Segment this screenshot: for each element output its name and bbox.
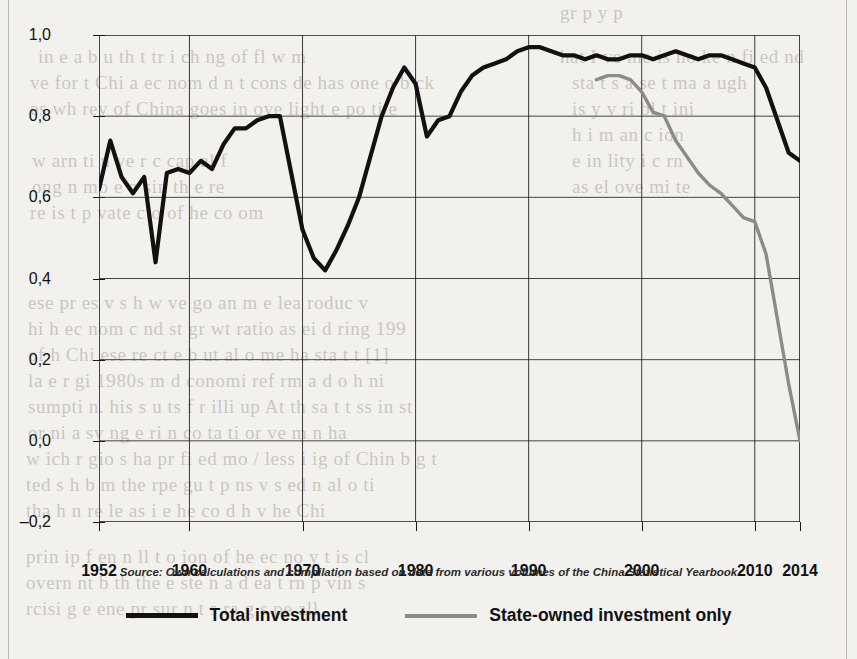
legend-label: Total investment	[210, 605, 348, 626]
y-tick-label: 0,8	[5, 107, 51, 125]
y-tick-label: 0,0	[5, 432, 51, 450]
source-note: Source: Own calculations and compilation…	[0, 566, 857, 578]
x-tick-mark	[642, 522, 643, 531]
legend-item: Total investment	[126, 605, 348, 626]
series-line	[596, 76, 800, 441]
x-tick-mark	[755, 522, 756, 531]
y-tick-label: 0,2	[5, 351, 51, 369]
x-tick-mark	[303, 522, 304, 531]
chart-legend: Total investmentState-owned investment o…	[0, 605, 857, 626]
x-tick-mark	[189, 522, 190, 531]
x-tick-mark	[529, 522, 530, 531]
x-tick-mark	[800, 522, 801, 531]
y-tick-label: 0,6	[5, 188, 51, 206]
y-tick-label: –0,2	[5, 513, 51, 531]
legend-label: State-owned investment only	[489, 605, 731, 626]
y-tick-label: 0,4	[5, 270, 51, 288]
chart-container: Pearson product-moment correlation coeff…	[0, 0, 857, 659]
legend-line-swatch	[405, 614, 477, 618]
x-tick-mark	[416, 522, 417, 531]
series-line	[99, 47, 800, 270]
plot-area: 19521960197019801990200020102014	[99, 35, 800, 522]
y-tick-label: 1,0	[5, 26, 51, 44]
x-tick-mark	[99, 522, 100, 531]
legend-line-swatch	[126, 613, 198, 618]
legend-item: State-owned investment only	[405, 605, 731, 626]
chart-svg	[99, 35, 800, 522]
